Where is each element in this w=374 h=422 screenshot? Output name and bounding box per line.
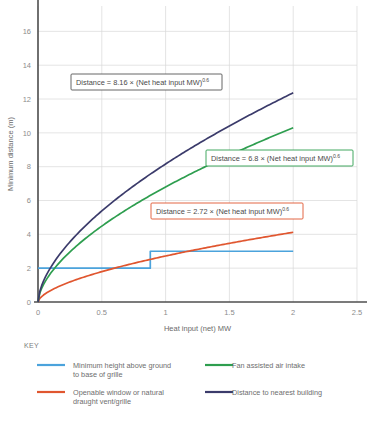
y-tick-label: 14: [23, 61, 31, 70]
y-tick-label: 2: [27, 264, 31, 273]
key-label: Fan assisted air intake: [232, 361, 305, 370]
key-label: Distance to nearest building: [232, 388, 322, 397]
x-tick-label: 1.5: [224, 308, 234, 317]
x-axis-title: Heat input (net) MW: [164, 324, 232, 333]
y-tick-label: 16: [23, 27, 31, 36]
x-tick-label: 0.5: [97, 308, 107, 317]
y-tick-label: 8: [27, 162, 31, 171]
key-label: Openable window or natural: [73, 388, 164, 397]
key-header: KEY: [24, 342, 39, 349]
annotation-label: Distance = 8.16 × (Net heat input MW)0.6: [76, 77, 209, 87]
key-label: Minimum height above ground: [73, 361, 171, 370]
annotation-label: Distance = 2.72 × (Net heat input MW)0.6: [156, 206, 289, 216]
y-tick-label: 4: [27, 230, 31, 239]
key-label-line2: draught vent/grille: [73, 397, 131, 406]
y-tick-label: 0: [27, 298, 31, 307]
x-tick-label: 0: [36, 308, 40, 317]
y-tick-label: 12: [23, 95, 31, 104]
x-tick-label: 2: [291, 308, 295, 317]
x-tick-label: 1: [164, 308, 168, 317]
y-axis-title: Minimum distance (m): [6, 117, 15, 191]
y-tick-label: 10: [23, 129, 31, 138]
y-tick-label: 6: [27, 196, 31, 205]
annotation-label: Distance = 6.8 × (Net heat input MW)0.6: [211, 153, 340, 163]
minimum-distance-vs-heat-input-chart: 00.511.522.50246810121416Heat input (net…: [0, 0, 374, 422]
chart-figure: 00.511.522.50246810121416Heat input (net…: [0, 0, 374, 422]
key-label-line2: to base of grille: [73, 370, 123, 379]
x-tick-label: 2.5: [352, 308, 362, 317]
